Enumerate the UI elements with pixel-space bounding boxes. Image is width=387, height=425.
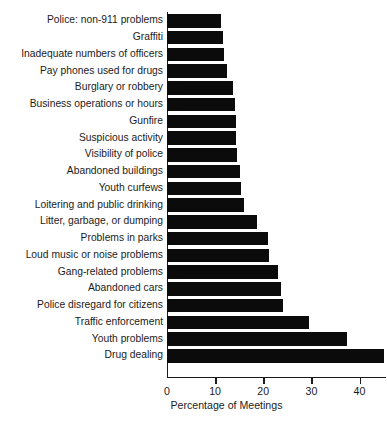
tick-mark [263,378,264,384]
category-label: Traffic enforcement [0,316,163,327]
category-label: Litter, garbage, or dumping [0,215,163,226]
category-label: Inadequate numbers of officers [0,48,163,59]
bar [167,316,309,329]
tick-label: 20 [257,385,269,397]
bar-chart: Police: non-911 problemsGraffitiInadequa… [0,0,387,425]
bar [167,98,235,111]
category-label: Youth problems [0,333,163,344]
bar [167,48,224,61]
bar [167,265,278,278]
category-label: Pay phones used for drugs [0,65,163,76]
bar [167,332,347,345]
tick-label: 40 [354,385,366,397]
x-axis-title: Percentage of Meetings [0,399,387,411]
category-label: Abandoned buildings [0,165,163,176]
tick-mark [311,378,312,384]
category-label: Problems in parks [0,232,163,243]
bar [167,115,236,128]
category-label: Suspicious activity [0,132,163,143]
category-label: Gang-related problems [0,266,163,277]
bar [167,64,227,77]
category-label: Loitering and public drinking [0,199,163,210]
bar [167,148,237,161]
category-label: Business operations or hours [0,98,163,109]
category-axis-labels: Police: non-911 problemsGraffitiInadequa… [0,12,163,378]
category-label: Loud music or noise problems [0,249,163,260]
category-label: Drug dealing [0,349,163,360]
category-label: Police: non-911 problems [0,14,163,25]
bar [167,232,268,245]
category-label: Gunfire [0,115,163,126]
bars-layer [167,12,386,378]
bar [167,14,221,27]
category-label: Burglary or robbery [0,81,163,92]
category-label: Visibility of police [0,148,163,159]
tick-label: 0 [164,385,170,397]
category-label: Youth curfews [0,182,163,193]
tick-mark [360,378,361,384]
bar [167,249,269,262]
plot-area [167,12,386,378]
category-label: Graffiti [0,31,163,42]
tick-label: 30 [305,385,317,397]
x-axis-ticks: 010203040 [0,378,387,418]
category-label: Abandoned cars [0,282,163,293]
bar [167,349,384,362]
bar [167,165,240,178]
bar [167,299,283,312]
bar [167,215,257,228]
tick-mark [215,378,216,384]
bar [167,182,241,195]
bar [167,81,233,94]
bar [167,131,236,144]
tick-label: 10 [209,385,221,397]
bar [167,282,281,295]
bar [167,31,223,44]
bar [167,198,244,211]
category-label: Police disregard for citizens [0,299,163,310]
